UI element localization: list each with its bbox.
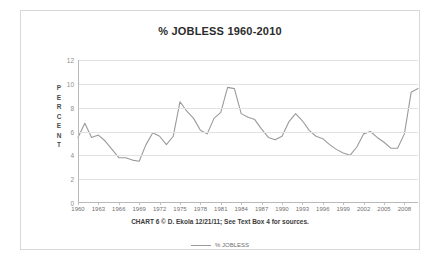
x-axis-tick-label: 1972 [153, 206, 166, 212]
y-axis-tick-label: 12 [48, 57, 74, 64]
x-axis-tick-label: 1996 [316, 206, 329, 212]
x-axis-tick-label: 1990 [275, 206, 288, 212]
x-axis-tick-label: 1978 [194, 206, 207, 212]
y-axis-tick-label: 2 [48, 176, 74, 183]
y-axis-title-char: C [54, 112, 64, 122]
x-axis-tick-label: 1984 [235, 206, 248, 212]
y-axis-title-char: T [54, 140, 64, 150]
y-axis-title-char: E [54, 93, 64, 103]
plot-axes [78, 60, 418, 203]
chart-frame: % JOBLESS 1960-2010 P E R C E N T 024681… [20, 10, 420, 250]
chart-caption: CHART 6 © D. Ekola 12/21/11; See Text Bo… [21, 218, 419, 225]
x-axis-tick-label: 1975 [173, 206, 186, 212]
y-axis-tick-label: 8 [48, 104, 74, 111]
chart-title: % JOBLESS 1960-2010 [21, 25, 419, 37]
x-axis-tick-label: 1981 [214, 206, 227, 212]
x-axis-tick-label: 2002 [357, 206, 370, 212]
x-axis-tick-label: 1969 [133, 206, 146, 212]
legend-line-swatch [191, 245, 211, 246]
y-axis-title: P E R C E N T [54, 83, 64, 150]
y-axis-tick-label: 6 [48, 128, 74, 135]
plot-area: 024681012 196019631966196919721975197819… [78, 60, 418, 203]
legend-label-jobless: % JOBLESS [215, 242, 249, 248]
x-axis-tick-label: 2008 [398, 206, 411, 212]
y-axis-tick-label: 10 [48, 80, 74, 87]
x-axis-tick-label: 1987 [255, 206, 268, 212]
x-axis-tick-label: 1993 [296, 206, 309, 212]
y-axis-tick-label: 4 [48, 152, 74, 159]
y-axis-tick-label: 0 [48, 200, 74, 207]
x-axis-tick-label: 1960 [71, 206, 84, 212]
x-axis-tick-label: 1963 [92, 206, 105, 212]
x-axis-tick-label: 1999 [337, 206, 350, 212]
x-axis-tick-label: 1966 [112, 206, 125, 212]
x-axis-tick-label: 2005 [377, 206, 390, 212]
chart-legend: % JOBLESS [21, 242, 419, 248]
